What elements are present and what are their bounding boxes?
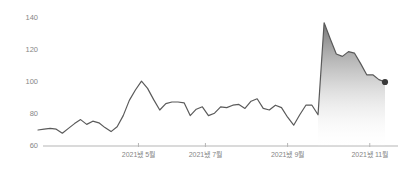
x-tick-label: 2021뇄 7월: [189, 150, 222, 159]
end-point-marker: [382, 79, 388, 85]
y-tick-label: 80: [30, 109, 38, 118]
y-tick-label: 100: [25, 77, 38, 86]
x-tick-label: 2021뇄 9월: [271, 150, 304, 159]
line-chart: 6080100120140 2021뇄 5월2021뇄 7월2021뇄 9월20…: [0, 0, 407, 170]
y-tick-label: 120: [25, 45, 38, 54]
y-tick-label: 140: [25, 13, 38, 22]
chart-canvas: 6080100120140 2021뇄 5월2021뇄 7월2021뇄 9월20…: [0, 0, 407, 170]
x-tick-label: 2021뇄 5월: [122, 150, 155, 159]
y-axis-tick-labels: 6080100120140: [25, 13, 38, 150]
x-tick-label: 2021뇄 11월: [351, 150, 388, 159]
x-axis-tick-labels: 2021뇄 5월2021뇄 7월2021뇄 9월2021뇄 11월: [122, 150, 388, 159]
y-tick-label: 60: [30, 141, 38, 150]
area-fill: [318, 23, 385, 146]
